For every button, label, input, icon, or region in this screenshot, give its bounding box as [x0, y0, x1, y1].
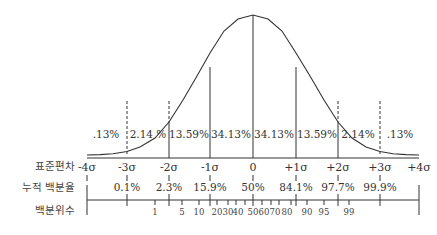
- percentile-label: 10: [194, 208, 205, 217]
- sigma-label: -3σ: [118, 162, 136, 173]
- percentile-label: 40: [233, 208, 244, 217]
- sigma-label: -2σ: [160, 162, 178, 173]
- segment-label-2: 2.14 %: [130, 129, 167, 140]
- sd-row-label: 표준편차: [35, 161, 75, 172]
- cumulative-label: 2.3%: [156, 182, 183, 193]
- sigma-label: +1σ: [284, 162, 308, 173]
- segment-label-4: 34.13%: [211, 129, 251, 140]
- sigma-label: +2σ: [326, 162, 350, 173]
- percentile-label: 60: [259, 208, 270, 217]
- sigma-label: 0: [250, 162, 257, 173]
- distribution-graphic: [0, 0, 437, 235]
- percentile-label: 1: [152, 208, 157, 217]
- sigma-label: -1σ: [201, 162, 219, 173]
- segment-label-1: .13%: [93, 129, 120, 140]
- segment-label-8: .13%: [387, 129, 414, 140]
- normal-distribution-diagram: .13% 2.14 % 13.59% 34.13% 34.13% 13.59% …: [0, 0, 437, 235]
- segment-label-5: 34.13%: [254, 129, 294, 140]
- sigma-label: +3σ: [368, 162, 392, 173]
- segment-label-7: 2.14%: [341, 129, 374, 140]
- cumulative-label: 50%: [241, 182, 264, 193]
- segment-label-3: 13.59%: [169, 129, 209, 140]
- sigma-label: -4σ: [78, 162, 96, 173]
- percentile-label: 50: [248, 208, 259, 217]
- cumulative-label: 97.7%: [321, 182, 354, 193]
- percentile-label: 70: [270, 208, 281, 217]
- percentile-row-label: 백분위수: [35, 205, 75, 216]
- percentile-minor-ticks: [155, 200, 349, 205]
- cumulative-label: 99.9%: [363, 182, 396, 193]
- percentile-label: 99: [344, 208, 355, 217]
- percentile-label: 80: [282, 208, 293, 217]
- percentile-label: 5: [179, 208, 184, 217]
- cumulative-row-label: 누적 백분율: [22, 182, 75, 193]
- cumulative-label: 84.1%: [279, 182, 312, 193]
- sigma-label: +4σ: [407, 162, 431, 173]
- percentile-label: 90: [302, 208, 313, 217]
- cumulative-label: 0.1%: [114, 182, 141, 193]
- segment-label-6: 13.59%: [297, 129, 337, 140]
- percentile-label: 95: [319, 208, 330, 217]
- cumulative-label: 15.9%: [193, 182, 226, 193]
- percentile-label: 20: [212, 208, 223, 217]
